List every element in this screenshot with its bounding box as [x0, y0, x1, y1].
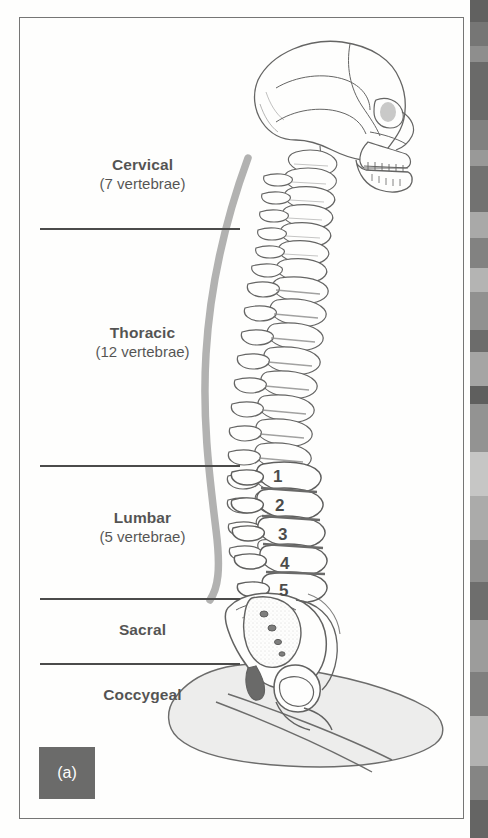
- seat-support-shape: [169, 664, 443, 772]
- divider-cervical-thoracic: [40, 228, 240, 230]
- panel-tag-label: (a): [57, 764, 77, 782]
- label-thoracic-count: (12 vertebrae): [40, 342, 245, 361]
- label-sacral-name: Sacral: [40, 620, 245, 639]
- label-lumbar: Lumbar (5 vertebrae): [40, 508, 245, 546]
- figure-frame: Cervical (7 vertebrae) Thoracic (12 vert…: [19, 17, 464, 819]
- label-lumbar-count: (5 vertebrae): [40, 527, 245, 546]
- label-thoracic-name: Thoracic: [40, 323, 245, 342]
- skull: [255, 41, 414, 192]
- lumbar-number-5: 5: [279, 582, 288, 599]
- lumbar-number-2: 2: [275, 497, 284, 514]
- panel-tag-a: (a): [39, 747, 95, 799]
- label-cervical-count: (7 vertebrae): [40, 174, 245, 193]
- label-coccygeal-name: Coccygeal: [40, 685, 245, 704]
- label-cervical-name: Cervical: [40, 155, 245, 174]
- lumbar-number-1: 1: [273, 468, 282, 485]
- cervical-vertebrae: [252, 150, 337, 282]
- label-cervical: Cervical (7 vertebrae): [40, 155, 245, 193]
- adjacent-photo-sliver: [470, 0, 488, 838]
- label-lumbar-name: Lumbar: [40, 508, 245, 527]
- divider-sacral-coccygeal: [40, 663, 240, 665]
- label-sacral: Sacral: [40, 620, 245, 639]
- divider-lumbar-sacral: [40, 598, 240, 600]
- divider-thoracic-lumbar: [40, 465, 240, 467]
- lumbar-number-3: 3: [278, 526, 287, 543]
- sacrum-and-pelvis: [225, 593, 340, 730]
- lumbar-number-4: 4: [280, 555, 289, 572]
- label-coccygeal: Coccygeal: [40, 685, 245, 704]
- label-thoracic: Thoracic (12 vertebrae): [40, 323, 245, 361]
- scanned-page: Cervical (7 vertebrae) Thoracic (12 vert…: [0, 0, 488, 838]
